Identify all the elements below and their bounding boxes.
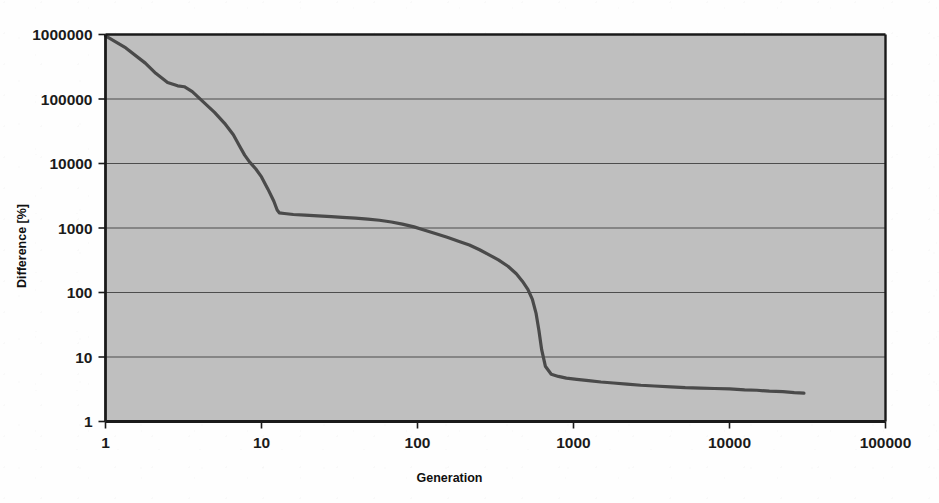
x-axis-title: Generation xyxy=(417,471,483,485)
y-tick-label-10: 10 xyxy=(75,349,92,366)
x-tick-label-10: 10 xyxy=(253,434,270,451)
y-tick-label-1: 1 xyxy=(84,413,93,430)
y-axis-tick-labels: 1101001000100001000001000000 xyxy=(32,26,93,430)
log-log-line-chart: 110100100010000100000 110100100010000100… xyxy=(0,0,939,503)
figure-canvas: 110100100010000100000 110100100010000100… xyxy=(0,0,939,503)
y-tick-label-10000: 10000 xyxy=(49,155,92,172)
x-tick-label-100: 100 xyxy=(405,434,431,451)
y-axis-title: Difference [%] xyxy=(15,204,29,288)
x-tick-label-10000: 10000 xyxy=(708,434,751,451)
x-tick-label-100000: 100000 xyxy=(860,434,912,451)
y-tick-label-1000: 1000 xyxy=(58,220,92,237)
y-tick-label-1000000: 1000000 xyxy=(32,26,92,43)
x-axis-tick-labels: 110100100010000100000 xyxy=(101,434,911,451)
y-tick-label-100: 100 xyxy=(67,284,93,301)
x-tick-label-1000: 1000 xyxy=(556,434,590,451)
x-tick-label-1: 1 xyxy=(101,434,110,451)
y-tick-label-100000: 100000 xyxy=(41,91,93,108)
